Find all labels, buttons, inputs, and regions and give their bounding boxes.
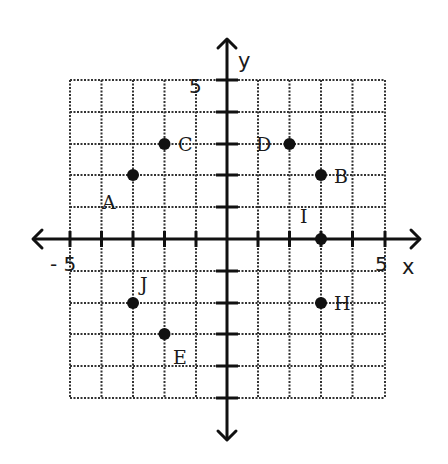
point-d [284, 138, 296, 150]
point-label-h: H [334, 292, 351, 314]
point-label-a: A [101, 191, 116, 213]
point-label-e: E [173, 346, 187, 368]
x-max-tick-label: 5 [375, 252, 388, 276]
point-i [315, 233, 327, 245]
y-axis-label: y [238, 49, 250, 73]
coordinate-plane: y x 5 - 5 5 A C D B I J E H [0, 0, 448, 464]
point-h [315, 297, 327, 309]
point-label-d: D [256, 133, 271, 155]
point-label-j: J [138, 273, 148, 295]
point-label-b: B [334, 165, 348, 187]
point-c [159, 138, 171, 150]
point-label-c: C [178, 133, 193, 155]
point-a [127, 169, 139, 181]
x-min-tick-label: - 5 [50, 252, 76, 276]
x-axis-label: x [402, 255, 414, 279]
point-label-i: I [300, 205, 308, 227]
point-e [159, 328, 171, 340]
y-max-tick-label: 5 [189, 74, 202, 98]
point-j [127, 297, 139, 309]
point-b [315, 169, 327, 181]
